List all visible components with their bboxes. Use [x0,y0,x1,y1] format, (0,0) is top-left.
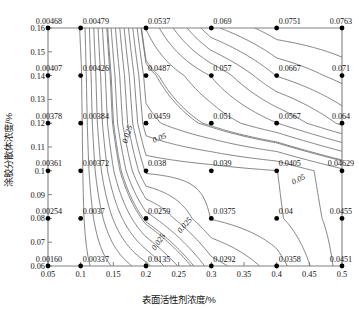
x-tick-label: 0.35 [237,270,252,279]
data-point [209,264,214,269]
data-point [46,216,51,221]
x-tick-label: 0.5 [337,270,347,279]
data-point [209,26,214,31]
data-point-value-label: 0.00407 [36,64,62,73]
x-axis-title: 表面活性剂浓度/% [142,294,216,305]
data-point [340,73,345,78]
y-tick-label: 0.11 [31,143,45,152]
data-point-value-label: 0.064 [332,112,350,121]
x-tick-label: 0.25 [171,270,186,279]
contour-plot-svg: 0.050.10.150.20.250.30.350.40.450.50.060… [0,0,359,309]
x-tick-label: 0.45 [302,270,317,279]
data-point [46,26,51,31]
data-point-value-label: 0.0667 [279,64,301,73]
data-point [78,73,83,78]
data-point [144,73,149,78]
data-point-value-label: 0.0451 [330,255,352,264]
data-point [144,26,149,31]
data-point-value-label: 0.0037 [83,207,105,216]
data-point-value-label: 0.00361 [36,159,62,168]
data-point [209,168,214,173]
data-point-value-label: 0.0292 [213,255,235,264]
data-point-value-label: 0.0567 [279,112,301,121]
x-tick-label: 0.4 [271,270,282,279]
data-point-value-label: 0.00479 [83,17,109,26]
y-tick-label: 0.07 [30,238,45,247]
data-point-value-label: 0.069 [213,17,231,26]
x-tick-label: 0.05 [41,270,56,279]
data-point-value-label: 0.0259 [148,207,170,216]
data-point [46,73,51,78]
data-point-value-label: 0.00372 [83,159,109,168]
data-point [274,26,279,31]
data-point [340,26,345,31]
data-point-value-label: 0.0459 [148,112,170,121]
contour-chart: 0.050.10.150.20.250.30.350.40.450.50.060… [0,0,359,309]
data-point-value-label: 0.039 [213,159,231,168]
data-point [144,264,149,269]
y-tick-label: 0.15 [30,48,45,57]
x-tick-label: 0.2 [141,270,151,279]
data-point [340,168,345,173]
x-tick-label: 0.3 [206,270,216,279]
data-point-value-label: 0.0763 [330,17,352,26]
data-point-value-label: 0.0487 [148,64,170,73]
data-point-value-label: 0.0135 [148,255,170,264]
data-point [209,73,214,78]
data-point-value-label: 0.00337 [83,255,109,264]
data-point-value-label: 0.00378 [36,112,62,121]
data-point-value-label: 0.00384 [83,112,109,121]
data-point [46,121,51,126]
data-point [144,168,149,173]
data-point [78,121,83,126]
data-point-value-label: 0.0358 [279,255,301,264]
data-point [340,264,345,269]
data-point-value-label: 0.04629 [328,159,354,168]
data-point-value-label: 0.0455 [330,207,352,216]
data-point [209,121,214,126]
data-point [274,216,279,221]
data-point-value-label: 0.00254 [36,207,62,216]
data-point-value-label: 0.00160 [36,255,62,264]
y-axis-title: 涂胶分散体浓度/% [3,113,14,187]
data-point [340,121,345,126]
data-point-value-label: 0.04 [279,207,293,216]
data-point [46,168,51,173]
data-point-value-label: 0.071 [332,64,350,73]
data-point [144,121,149,126]
data-point [144,216,149,221]
y-tick-label: 0.09 [30,191,45,200]
data-point-value-label: 0.0751 [279,17,301,26]
data-point-value-label: 0.0405 [279,159,301,168]
data-point [209,216,214,221]
x-tick-label: 0.15 [106,270,121,279]
data-point [78,168,83,173]
data-point-value-label: 0.0537 [148,17,170,26]
y-tick-label: 0.13 [30,95,45,104]
data-point-value-label: 0.038 [148,159,166,168]
data-point [78,216,83,221]
data-point-value-label: 0.057 [213,64,231,73]
data-point [274,168,279,173]
data-point [274,73,279,78]
data-point-value-label: 0.00468 [36,17,62,26]
data-point [274,264,279,269]
data-point [340,216,345,221]
data-point-value-label: 0.0375 [213,207,235,216]
data-point-value-label: 0.051 [213,112,231,121]
data-point [78,264,83,269]
data-point [46,264,51,269]
data-point-value-label: 0.00426 [83,64,109,73]
data-point [78,26,83,31]
data-point [274,121,279,126]
x-tick-label: 0.1 [75,270,85,279]
